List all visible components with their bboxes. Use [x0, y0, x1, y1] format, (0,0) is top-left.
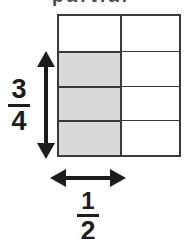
grid-cell-r3c1 [59, 86, 122, 121]
figure-canvas: partial 3 4 1 2 [0, 0, 193, 239]
vertical-label-numerator: 3 [6, 76, 32, 103]
vertical-label-denominator: 4 [6, 108, 32, 135]
grid-cell-r4c2 [122, 120, 179, 155]
grid-cell-r1c2 [122, 16, 179, 51]
caption-cutoff-region: partial [0, 0, 193, 9]
vertical-dimension-arrow-icon [35, 51, 57, 159]
caption-cutoff-text: partial [52, 0, 130, 7]
grid-cell-r3c2 [122, 86, 179, 121]
vertical-dimension-label: 3 4 [6, 76, 32, 135]
area-model-grid [57, 14, 181, 157]
grid-cell-r4c1 [59, 120, 122, 155]
horizontal-dimension-label: 1 2 [75, 189, 101, 239]
grid-cell-r2c2 [122, 51, 179, 86]
horizontal-label-denominator: 2 [75, 218, 101, 239]
horizontal-dimension-arrow-icon [50, 167, 126, 189]
grid-cell-r2c1 [59, 51, 122, 86]
horizontal-label-numerator: 1 [75, 189, 101, 213]
grid-cell-r1c1 [59, 16, 122, 51]
